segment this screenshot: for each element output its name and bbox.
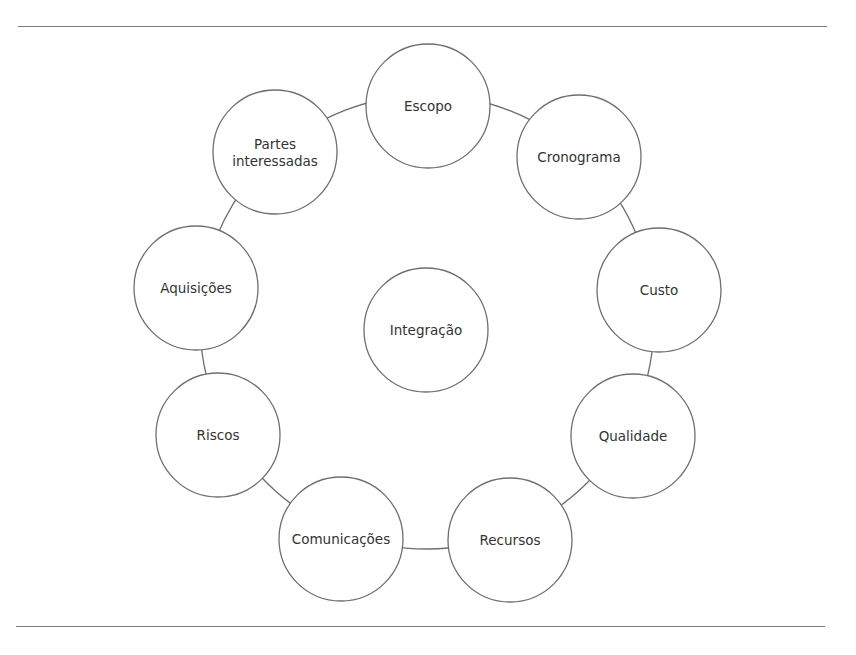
center-node-integracao: Integração <box>364 268 488 392</box>
node-comunicacoes: Comunicações <box>279 477 403 601</box>
node-label: Cronograma <box>537 149 621 165</box>
node-label: Escopo <box>404 98 452 114</box>
node-label: Partes <box>254 136 296 152</box>
node-aquisicoes: Aquisições <box>134 226 258 350</box>
node-partes-interessadas: Partesinteressadas <box>213 90 337 214</box>
node-label: Aquisições <box>160 280 232 296</box>
node-label: Custo <box>640 282 679 298</box>
node-cronograma: Cronograma <box>517 95 641 219</box>
node-custo: Custo <box>597 228 721 352</box>
node-label: Qualidade <box>599 428 668 444</box>
node-escopo: Escopo <box>366 44 490 168</box>
node-riscos: Riscos <box>156 373 280 497</box>
node-label: Integração <box>390 322 462 338</box>
knowledge-areas-diagram: EscopoCronogramaCustoQualidadeRecursosCo… <box>0 0 856 655</box>
node-label: Recursos <box>480 532 541 548</box>
node-label: Riscos <box>197 427 240 443</box>
node-recursos: Recursos <box>448 478 572 602</box>
node-qualidade: Qualidade <box>571 374 695 498</box>
node-label: Comunicações <box>292 531 390 547</box>
node-label: interessadas <box>232 153 318 169</box>
